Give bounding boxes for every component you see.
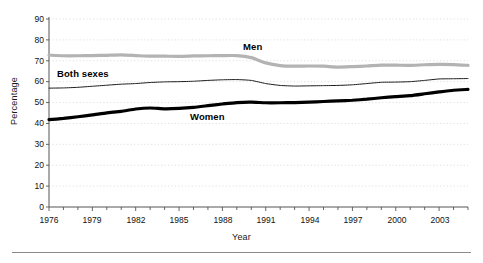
series-line-both-sexes: [49, 79, 468, 89]
chart-plot-area: [0, 0, 483, 263]
footer-divider: [12, 252, 471, 253]
series-line-men: [49, 55, 468, 67]
chart-figure: Percentage Year 90 80 70 60 50 40 30 20 …: [0, 0, 483, 263]
series-annotation-both-sexes: Both sexes: [57, 68, 109, 79]
series-line-women: [49, 89, 468, 119]
data-series-lines: [49, 55, 468, 120]
series-annotation-men: Men: [243, 41, 262, 52]
series-annotation-women: Women: [190, 111, 225, 122]
